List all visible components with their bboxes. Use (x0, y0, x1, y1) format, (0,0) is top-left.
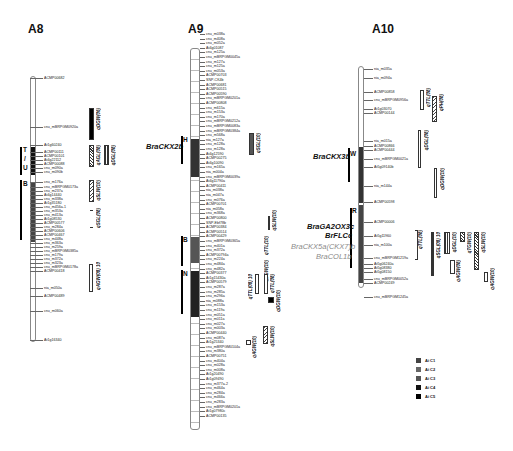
qtl-bar (89, 180, 94, 202)
qtl-label: qAGL(08) (96, 145, 101, 165)
marker-tick (200, 370, 205, 371)
qtl-label: qDGW(06) (96, 108, 101, 130)
marker-tick (364, 268, 373, 269)
marker-tick (30, 168, 43, 169)
marker-tick (200, 117, 205, 118)
marker-tick (200, 356, 205, 357)
marker-tick (200, 402, 205, 403)
qtl-bar (450, 260, 455, 274)
marker-tick (200, 80, 205, 81)
region-label-u: U (23, 164, 28, 171)
marker-label: At5g08150 (374, 270, 391, 274)
marker-tick (200, 282, 205, 283)
marker-label: cnu_m003a (206, 326, 225, 330)
region-label-w: W (350, 150, 356, 157)
marker-label: cnu_mBRPGM0201a (206, 96, 240, 100)
marker-tick (200, 342, 205, 343)
marker-tick (30, 227, 43, 228)
marker-label: At5g09140b (374, 165, 393, 169)
marker-label: At1g20490 (206, 372, 223, 376)
marker-tick (30, 191, 43, 192)
marker-label: ACMP00006 (374, 220, 394, 224)
marker-tick (364, 202, 373, 203)
marker-label: cnu_m076a (206, 198, 225, 202)
marker-label: cnu_mBRPGM0104a (206, 345, 240, 349)
marker-tick (364, 279, 373, 280)
marker-tick (200, 379, 205, 380)
qtl-label: qTTL(08) (270, 274, 275, 293)
marker-label: SNP-Ebf78b (206, 221, 226, 225)
qtl-label: qDGL(08) (424, 130, 429, 150)
marker-tick (200, 52, 205, 53)
marker-tick (30, 78, 43, 79)
marker-tick (200, 365, 205, 366)
legend-item: Ai C3 (416, 374, 435, 383)
gene-label-brflcc: BrFLCc (325, 231, 352, 240)
marker-tick (30, 172, 43, 173)
qtl-bar (89, 145, 94, 167)
marker-tick (200, 43, 205, 44)
marker-label: nia_m144a (374, 184, 392, 188)
qtl-label: qAGW(10) (490, 268, 495, 290)
marker-label: cnu_m170a (206, 115, 225, 119)
marker-tick (30, 239, 43, 240)
marker-tick (200, 278, 205, 279)
marker-label: nia_m094a (374, 76, 392, 80)
marker-tick (200, 213, 205, 214)
marker-tick (30, 267, 43, 268)
gene-label-bracx2b: BraCKX2b (146, 142, 183, 151)
marker-tick (200, 273, 205, 274)
region-label-t: T (23, 146, 27, 153)
marker-label: cnu_mBRPGM0201a (206, 405, 240, 409)
marker-tick (30, 187, 43, 188)
legend-item: Ai C1 (416, 356, 435, 365)
qtl-bar (249, 133, 254, 155)
marker-tick (200, 167, 205, 168)
qtl-label: qSLW(10) (96, 180, 101, 201)
marker-tick (200, 241, 205, 242)
qtl-label: qTTL(08) (426, 88, 431, 107)
gene-label-braga2ox3c: BraGA2OX3c (307, 222, 354, 231)
marker-tick (200, 255, 205, 256)
qtl-label: qDGW(10) (440, 168, 445, 190)
marker-label: cnu_mBRPGM1219a (374, 256, 408, 260)
gene-label-bracx3b: BraCKX3b (313, 152, 350, 161)
marker-tick (30, 288, 43, 289)
qtl-bar (444, 232, 450, 254)
marker-label: nia_m038a (206, 188, 224, 192)
marker-tick (200, 407, 205, 408)
marker-label: ACMP00858 (374, 90, 394, 94)
marker-tick (200, 200, 205, 201)
marker-tick (200, 190, 205, 191)
marker-label: cnu_m087a (206, 336, 225, 340)
marker-label: cnu_m051a (206, 313, 225, 317)
qtl-label: qSGL(08) (96, 208, 101, 228)
marker-tick (364, 109, 373, 110)
marker-label: At5g11960 (374, 234, 391, 238)
marker-tick (30, 203, 43, 204)
chromosome-a9 (190, 48, 200, 430)
qtl-bar (431, 232, 434, 276)
marker-label: cnu_mBRPGM0920a (44, 125, 78, 129)
qtl-label: qTTL(08) 10 (248, 274, 253, 299)
qtl-bar (89, 264, 93, 292)
marker-tick (364, 283, 373, 284)
marker-tick (30, 145, 43, 146)
marker-tick (30, 235, 43, 236)
marker-tick (200, 264, 205, 265)
marker-label: ACMP00682 (44, 76, 64, 80)
marker-label: ACMP00808 (206, 101, 226, 105)
marker-label: cnu_mBRPGM0083a (206, 124, 240, 128)
qtl-label: qPH(08) (439, 94, 444, 111)
marker-tick (364, 264, 373, 265)
marker-tick (200, 227, 205, 228)
marker-tick (200, 144, 205, 145)
qtl-bar (420, 90, 424, 110)
marker-label: cnu_m027a (206, 322, 225, 326)
marker-label: cnu_m568a (206, 133, 225, 137)
marker-tick (200, 361, 205, 362)
marker-label: cnu_m125a (206, 50, 225, 54)
marker-label: At4g12590 (206, 152, 223, 156)
qtl-label: qSLW(10) (272, 210, 277, 231)
marker-tick (30, 263, 43, 264)
